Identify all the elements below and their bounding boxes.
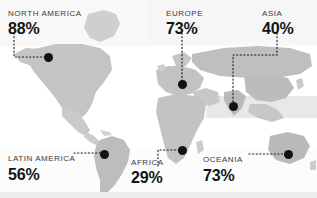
region-value-asia: 40% bbox=[262, 20, 293, 37]
callout-europe[interactable]: EUROPE 73% bbox=[166, 9, 203, 37]
landmass-antarctica bbox=[0, 192, 317, 198]
region-label-north-america: NORTH AMERICA bbox=[8, 9, 82, 19]
callout-oceania[interactable]: OCEANIA 73% bbox=[203, 148, 243, 184]
region-value-latin-america: 56% bbox=[8, 166, 75, 183]
map-marker-europe[interactable] bbox=[178, 80, 187, 89]
world-map-infographic: NORTH AMERICA 88% EUROPE 73% ASIA 40% LA… bbox=[0, 0, 317, 198]
callout-africa[interactable]: AFRICA 29% bbox=[131, 158, 164, 186]
region-label-africa: AFRICA bbox=[131, 158, 164, 168]
map-marker-north-america[interactable] bbox=[44, 53, 53, 62]
region-label-europe: EUROPE bbox=[166, 9, 203, 19]
region-value-europe: 73% bbox=[166, 20, 203, 37]
callout-asia[interactable]: ASIA 40% bbox=[262, 9, 293, 37]
region-label-latin-america: LATIN AMERICA bbox=[8, 154, 75, 164]
callout-north-america[interactable]: NORTH AMERICA 88% bbox=[8, 9, 82, 37]
region-label-oceania: OCEANIA bbox=[203, 155, 243, 165]
region-value-oceania: 73% bbox=[203, 167, 243, 184]
region-label-asia: ASIA bbox=[262, 9, 293, 19]
map-marker-latin-america[interactable] bbox=[100, 150, 109, 159]
callout-latin-america[interactable]: LATIN AMERICA 56% bbox=[8, 147, 75, 183]
region-value-africa: 29% bbox=[131, 169, 164, 186]
map-marker-asia[interactable] bbox=[229, 102, 238, 111]
map-marker-oceania[interactable] bbox=[284, 150, 293, 159]
region-value-north-america: 88% bbox=[8, 20, 82, 37]
map-marker-africa[interactable] bbox=[178, 146, 187, 155]
